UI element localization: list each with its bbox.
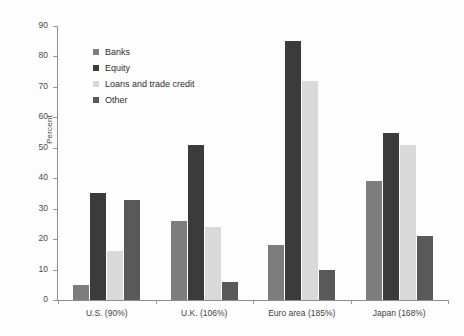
x-axis-tick-mark (58, 300, 59, 304)
chart-legend: BanksEquityLoans and trade creditOther (93, 44, 195, 108)
legend-item-label: Loans and trade credit (105, 79, 195, 89)
y-axis-tick-label: 20 (39, 233, 48, 243)
bar (285, 41, 301, 300)
x-axis-category-label: Japan (168%) (351, 308, 449, 318)
legend-item-label: Banks (105, 47, 130, 57)
x-axis-tick-mark (156, 300, 157, 304)
y-axis-tick-label: 10 (39, 264, 48, 274)
x-axis-tick-mark (253, 300, 254, 304)
y-axis-tick-label: 70 (39, 81, 48, 91)
x-axis-category-label: U.K. (106%) (156, 308, 254, 318)
legend-swatch-icon (93, 81, 99, 87)
legend-item-label: Equity (105, 63, 130, 73)
bar (90, 193, 106, 300)
bar (366, 181, 382, 300)
bar (383, 133, 399, 300)
bar-chart: Percent 0102030405060708090 U.S. (90%)U.… (0, 0, 464, 336)
bar (268, 245, 284, 300)
bar (171, 221, 187, 300)
bar (107, 251, 123, 300)
bar (417, 236, 433, 300)
bar (319, 270, 335, 300)
bar (400, 145, 416, 300)
legend-item: Loans and trade credit (93, 76, 195, 92)
y-axis-tick-label: 30 (39, 203, 48, 213)
legend-swatch-icon (93, 97, 99, 103)
bar (302, 81, 318, 300)
y-axis-tick-label: 60 (39, 111, 48, 121)
y-axis-tick-label: 0 (43, 294, 48, 304)
x-axis-category-label: U.S. (90%) (58, 308, 156, 318)
y-axis-tick-label: 90 (39, 20, 48, 30)
legend-item-label: Other (105, 95, 128, 105)
legend-swatch-icon (93, 65, 99, 71)
bar (124, 200, 140, 300)
legend-item: Banks (93, 44, 195, 60)
x-axis-category-label: Euro area (185%) (253, 308, 351, 318)
legend-swatch-icon (93, 49, 99, 55)
legend-item: Equity (93, 60, 195, 76)
x-axis-tick-mark (351, 300, 352, 304)
y-axis-tick-label: 40 (39, 172, 48, 182)
bar (222, 282, 238, 300)
bar-group (268, 26, 335, 300)
legend-item: Other (93, 92, 195, 108)
x-axis-tick-mark (448, 300, 449, 304)
bar (205, 227, 221, 300)
bar-group (366, 26, 433, 300)
y-axis-tick-label: 80 (39, 50, 48, 60)
bar (73, 285, 89, 300)
y-axis-tick-label: 50 (39, 142, 48, 152)
bar (188, 145, 204, 300)
